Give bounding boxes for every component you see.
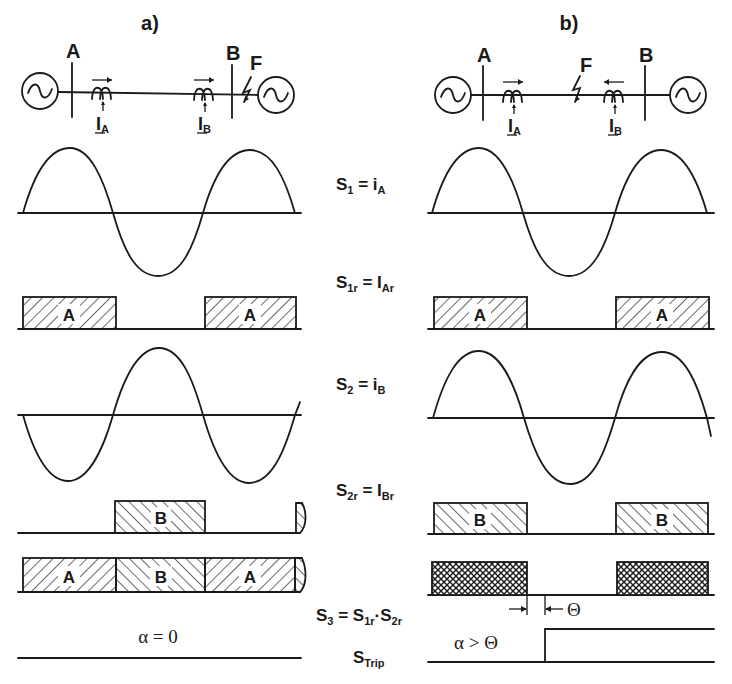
- signal-s2r-a: B: [18, 501, 306, 533]
- block-label: A: [244, 568, 256, 587]
- network-diagram-b: A IA F IB B: [435, 44, 706, 137]
- block-label: B: [474, 511, 486, 530]
- current-ib-label: IB: [609, 116, 622, 137]
- bus-a-label: A: [477, 44, 491, 66]
- signal-strip-a: α = 0: [18, 626, 301, 658]
- waveform-s2-a: [18, 348, 301, 483]
- label-s2r: S2r = IBr: [336, 481, 395, 502]
- sine-glyph-icon: [28, 84, 52, 97]
- fault-label: F: [250, 52, 262, 74]
- block-label: A: [656, 306, 668, 325]
- label-strip: STrip: [353, 648, 385, 669]
- waveform-s1-b: [428, 148, 714, 276]
- label-s3: S3 = S1r·S2r: [316, 606, 403, 627]
- signal-s2r-b: B B: [428, 503, 714, 534]
- current-ib-label: IB: [198, 114, 211, 135]
- condition-label: α > Θ: [454, 632, 498, 653]
- bus-a-label: A: [66, 40, 80, 62]
- block-label: A: [474, 306, 486, 325]
- panel-a: a) A IA IB B: [18, 12, 306, 658]
- block-label: A: [244, 306, 256, 325]
- theta-label: Θ: [567, 599, 581, 620]
- ct-a-icon: [503, 91, 522, 102]
- block-label: B: [656, 511, 668, 530]
- bus-b-label: B: [226, 42, 240, 64]
- waveform-s1-a: [18, 148, 301, 276]
- condition-label: α = 0: [138, 626, 178, 647]
- signal-labels: S1 = iA S1r = IAr S2 = iB S2r = IBr S3 =…: [316, 175, 403, 669]
- panel-a-title: a): [141, 12, 159, 34]
- block-label: A: [63, 568, 75, 587]
- block-label: A: [63, 306, 75, 325]
- label-s2: S2 = iB: [336, 375, 386, 396]
- current-ia-label: IA: [96, 114, 109, 135]
- network-diagram-a: A IA IB B F: [22, 40, 294, 135]
- signal-s1r-a: A A: [18, 297, 301, 329]
- block-label: B: [155, 568, 167, 587]
- theta-marker: Θ: [509, 595, 581, 620]
- differential-protection-figure: a) A IA IB B: [0, 0, 732, 684]
- current-ia-label: IA: [508, 116, 521, 137]
- block-label: B: [155, 509, 167, 528]
- signal-s1r-b: A A: [428, 297, 714, 329]
- bus-b-label: B: [639, 44, 653, 66]
- signal-s3-b: [428, 562, 714, 595]
- waveform-s2-b: [428, 351, 714, 484]
- label-s1r: S1r = IAr: [336, 273, 395, 294]
- ct-b-icon: [604, 91, 623, 102]
- panel-b: b) A IA F IB B: [428, 12, 714, 662]
- panel-b-title: b): [560, 12, 579, 34]
- signal-s3-a: A B A: [18, 558, 306, 592]
- signal-strip-b: α > Θ: [428, 629, 714, 662]
- fault-label: F: [580, 54, 592, 76]
- label-s1: S1 = iA: [336, 175, 386, 196]
